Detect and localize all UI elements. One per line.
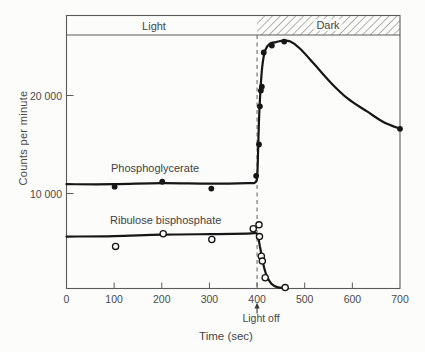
data-point (282, 284, 288, 290)
data-point (257, 103, 263, 109)
series-label-ribulose-bisphosphate: Ribulose bisphosphate (110, 214, 221, 226)
x-tick-label-400: 400 (248, 293, 266, 305)
data-point (261, 49, 267, 55)
data-point (209, 236, 215, 242)
y-tick-label-20000: 20 000 (16, 90, 62, 102)
data-point (253, 173, 259, 179)
data-point (160, 231, 166, 237)
data-point (112, 243, 118, 249)
light-band-label: Light (142, 20, 166, 32)
series-curve-ribulose-bisphosphate (67, 233, 289, 288)
series-ribulose-bisphosphate (67, 222, 289, 291)
light-off-annotation: Light off (242, 312, 279, 324)
data-point (159, 179, 165, 185)
data-point (112, 184, 118, 190)
data-point (259, 258, 265, 264)
data-point (397, 126, 403, 132)
x-tick-label-300: 300 (201, 293, 219, 305)
axis-ticks (67, 96, 353, 289)
data-point (262, 275, 268, 281)
data-point (256, 222, 262, 228)
x-tick-label-200: 200 (153, 293, 171, 305)
x-axis-label: Time (sec) (199, 330, 253, 342)
figure: Counts per minute Time (sec) 20 000 10 0… (0, 0, 425, 352)
x-tick-label-100: 100 (105, 293, 123, 305)
data-point (269, 43, 275, 49)
y-tick-label-10000: 10 000 (16, 188, 62, 200)
x-tick-label-600: 600 (344, 293, 362, 305)
data-point (259, 84, 265, 90)
series-label-phosphoglycerate: Phosphoglycerate (111, 162, 199, 174)
data-point (256, 142, 262, 148)
data-point (256, 234, 262, 240)
data-point (250, 226, 256, 232)
x-tick-label-0: 0 (64, 293, 70, 305)
data-point (208, 186, 214, 192)
x-tick-label-700: 700 (391, 293, 409, 305)
dark-band-label: Dark (313, 19, 342, 31)
y-axis-label: Counts per minute (17, 91, 29, 186)
x-tick-label-500: 500 (296, 293, 314, 305)
data-point (281, 39, 287, 45)
